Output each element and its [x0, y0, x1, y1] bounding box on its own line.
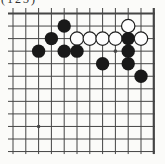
black-stone	[57, 19, 70, 32]
hoshi-point	[37, 125, 41, 129]
white-stone	[122, 19, 135, 32]
hoshi-point	[114, 49, 118, 53]
white-stone	[134, 32, 147, 45]
black-stone	[57, 44, 70, 57]
black-stone	[32, 44, 45, 57]
black-stone	[134, 70, 147, 83]
black-stone	[122, 32, 135, 45]
go-diagram: (123)	[0, 0, 165, 164]
black-stone	[122, 57, 135, 70]
black-stone	[96, 57, 109, 70]
black-stone	[122, 44, 135, 57]
white-stone	[83, 32, 96, 45]
go-board	[0, 0, 165, 164]
white-stone	[70, 32, 83, 45]
black-stone	[70, 44, 83, 57]
black-stone	[45, 32, 58, 45]
white-stone	[109, 32, 122, 45]
white-stone	[96, 32, 109, 45]
